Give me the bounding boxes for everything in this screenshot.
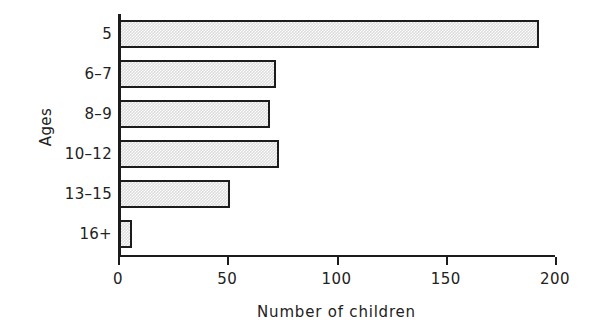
x-axis-tick bbox=[446, 257, 448, 265]
bar bbox=[119, 60, 276, 88]
x-axis-tick bbox=[118, 257, 120, 265]
x-axis-tick bbox=[227, 257, 229, 265]
y-axis-tick-label: 13–15 bbox=[26, 185, 112, 203]
y-axis-tick-labels: 56–78–910–1213–1516+ bbox=[26, 14, 112, 256]
x-axis-tick-label: 0 bbox=[88, 270, 148, 288]
bar bbox=[119, 140, 279, 168]
y-axis-tick-label: 6–7 bbox=[26, 65, 112, 83]
x-axis-tick-label: 200 bbox=[525, 270, 585, 288]
bar-chart: Ages 56–78–910–1213–1516+ 050100150200 N… bbox=[0, 0, 598, 335]
bar bbox=[119, 100, 270, 128]
plot-area: 050100150200 bbox=[118, 14, 570, 256]
y-axis-tick-label: 16+ bbox=[26, 225, 112, 243]
x-axis-tick bbox=[337, 257, 339, 265]
bar bbox=[119, 220, 132, 248]
x-axis-title: Number of children bbox=[118, 303, 555, 321]
y-axis-tick-label: 10–12 bbox=[26, 145, 112, 163]
y-axis-tick-label: 5 bbox=[26, 25, 112, 43]
x-axis-tick bbox=[555, 257, 557, 265]
x-axis-tick-label: 50 bbox=[197, 270, 257, 288]
bar bbox=[119, 20, 539, 48]
y-axis-tick-label: 8–9 bbox=[26, 105, 112, 123]
x-axis-tick-label: 150 bbox=[416, 270, 476, 288]
bar bbox=[119, 180, 230, 208]
x-axis-tick-label: 100 bbox=[307, 270, 367, 288]
